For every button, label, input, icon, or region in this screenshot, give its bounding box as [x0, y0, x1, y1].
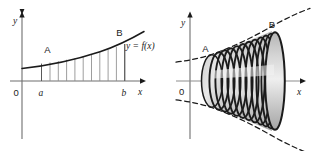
- right-back-disk-face: [265, 32, 285, 130]
- right-point-label-b: B: [269, 19, 275, 30]
- left-origin-label: 0: [14, 87, 19, 98]
- left-tick-label-a: a: [39, 88, 44, 98]
- right-point-label-a: A: [202, 43, 209, 54]
- left-curve-equation-label: y = f(x): [125, 41, 155, 52]
- diagram-svg: A B y = f(x) 0 a b x y: [0, 0, 315, 151]
- right-x-axis-label: x: [296, 87, 302, 97]
- left-x-axis-label: x: [137, 87, 143, 97]
- figure-container: A B y = f(x) 0 a b x y: [0, 0, 315, 151]
- right-y-axis-label: y: [180, 18, 186, 28]
- left-tick-label-b: b: [122, 88, 127, 98]
- right-origin-label: 0: [179, 86, 184, 97]
- left-point-label-b: B: [116, 27, 122, 38]
- left-point-label-a: A: [44, 44, 51, 55]
- left-y-axis-label: y: [12, 16, 18, 26]
